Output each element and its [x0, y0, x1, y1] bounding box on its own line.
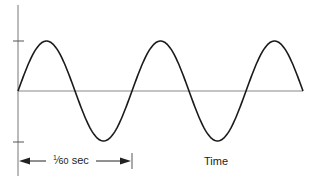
period-label-unit: sec — [69, 154, 89, 166]
period-label: 1⁄60 sec — [53, 154, 89, 166]
arrow-left-icon — [19, 158, 30, 165]
x-axis-label: Time — [204, 155, 228, 167]
arrow-right-icon — [120, 158, 131, 165]
sine-wave-diagram — [0, 0, 310, 179]
period-label-denominator: 60 — [59, 156, 69, 166]
